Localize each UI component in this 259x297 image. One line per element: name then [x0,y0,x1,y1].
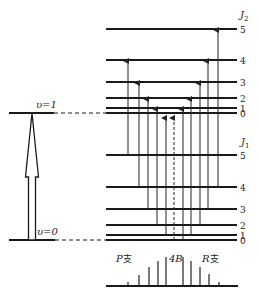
rotational-quantum-number: 1 [240,231,246,241]
vibrational-transition-arrow [26,113,39,240]
manifold-label: J2 [238,9,248,23]
rotational-quantum-number: 3 [240,205,246,215]
pr-branch-spectrum: P支4BR支 [106,253,238,286]
vibrational-levels: υ=1υ=0 [9,99,106,240]
p-branch-label: P支 [115,253,132,264]
energy-level-diagram: υ=1υ=0 012345J2 012345J1 P支4BR支 [0,0,259,297]
rotational-quantum-number: 5 [240,25,246,35]
rotational-quantum-number: 1 [240,104,246,114]
rotational-quantum-number: 4 [240,56,246,66]
band-gap-label: 4B [168,253,183,264]
upper-rotational-levels: 012345J2 [106,9,248,119]
rotational-quantum-number: 3 [240,78,246,88]
hollow-up-arrow-icon [26,113,39,240]
manifold-label: J1 [239,136,249,150]
r-branch-label: R支 [201,253,219,264]
vibrational-level-label: υ=0 [37,226,58,237]
rotational-quantum-number: 5 [240,151,246,161]
rotational-quantum-number: 4 [240,183,246,193]
rotational-quantum-number: 2 [240,94,246,104]
rotational-quantum-number: 2 [240,221,246,231]
vibrational-level-label: υ=1 [36,99,57,110]
